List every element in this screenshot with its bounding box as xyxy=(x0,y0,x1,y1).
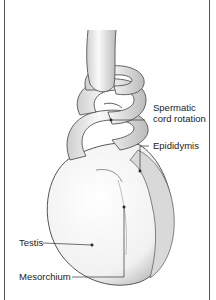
testis-shape xyxy=(47,143,174,285)
label-spermatic-cord-rotation: Spermatic cord rotation xyxy=(153,102,206,124)
label-mesorchium: Mesorchium xyxy=(19,271,71,282)
label-testis: Testis xyxy=(19,237,43,248)
label-line-2: cord rotation xyxy=(153,113,206,124)
label-line-1: Spermatic xyxy=(153,102,206,113)
spermatic-cord-shape xyxy=(67,30,148,160)
label-epididymis: Epididymis xyxy=(153,140,199,151)
